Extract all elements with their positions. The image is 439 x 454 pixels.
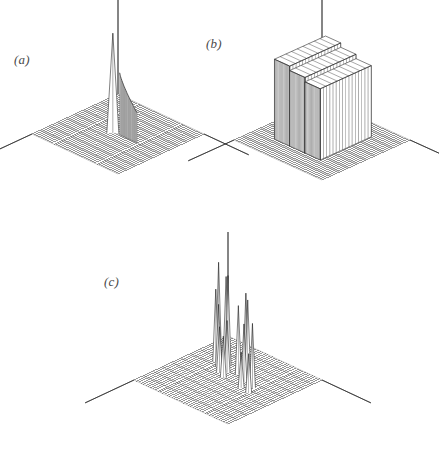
panel-b: (b) xyxy=(214,8,429,208)
panel-a-plot xyxy=(18,8,218,208)
panel-b-plot xyxy=(214,8,429,208)
panel-a: (a) xyxy=(18,8,218,208)
figure-surface-plots: (a) (b) (c) xyxy=(0,0,439,454)
panel-c: (c) xyxy=(110,258,360,454)
panel-c-plot xyxy=(110,258,360,454)
